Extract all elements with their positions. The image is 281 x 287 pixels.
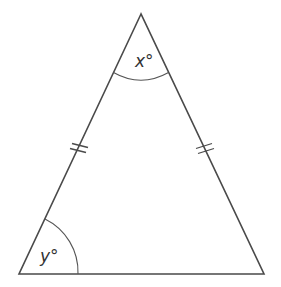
apex-angle-arc xyxy=(114,73,169,81)
apex-angle-label: x° xyxy=(134,51,154,71)
bottom-left-angle-label: y° xyxy=(39,246,59,266)
triangle-diagram: x° y° xyxy=(0,0,281,287)
